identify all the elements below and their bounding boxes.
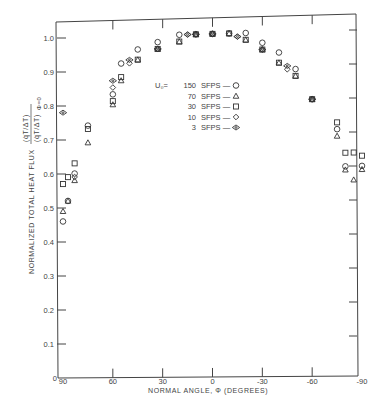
data-point-triangle	[276, 60, 282, 65]
data-point-circle	[155, 39, 161, 45]
data-point-circle	[260, 40, 266, 46]
legend-value: 3	[192, 123, 196, 132]
x-axis-ticks: 9060300-30-60-90	[59, 15, 368, 386]
y-tick-label: 0.4	[44, 238, 54, 247]
heat-flux-chart: 0.10.20.30.40.50.60.70.80.91.00 9060300-…	[0, 0, 379, 409]
legend-unit: SFPS —	[201, 113, 231, 122]
y-tick-label: 0.6	[44, 170, 54, 179]
y-axis-label: NORMALIZED TOTAL HEAT FLUX	[28, 149, 35, 274]
data-point-circle	[243, 30, 249, 36]
data-point-triangle	[85, 140, 91, 145]
data-point-triangle	[233, 93, 239, 98]
y-tick-label: 0.1	[44, 340, 54, 349]
data-point-triangle	[243, 37, 249, 42]
x-tick-label: 90	[59, 377, 67, 386]
data-point-square	[233, 104, 238, 109]
y-tick-label: 0.3	[44, 272, 54, 281]
y-tick-label: 0.9	[44, 68, 54, 77]
data-point-triangle	[176, 39, 182, 44]
data-point-triangle	[110, 102, 116, 107]
data-point-eye	[109, 78, 116, 83]
legend-unit: SFPS —	[201, 123, 231, 132]
legend-unit: SFPS —	[201, 102, 231, 111]
y-tick-label: 0	[53, 374, 57, 383]
y-axis-fraction-denominator: (q̇T/ΔT)	[33, 114, 41, 142]
data-point-circle	[85, 123, 91, 129]
x-tick-label: -60	[307, 377, 318, 386]
data-point-circle	[118, 61, 124, 67]
data-point-circle	[293, 66, 299, 72]
y-tick-label: 0.5	[44, 204, 54, 213]
y-tick-label: 0.2	[44, 306, 54, 315]
data-point-square	[351, 150, 356, 155]
y-tick-label: 1.0	[44, 34, 54, 43]
x-tick-label: 30	[158, 377, 166, 386]
data-point-circle	[176, 32, 182, 38]
data-point-diamond	[185, 32, 191, 38]
legend-prefix: U₀=	[155, 81, 169, 90]
x-tick-label: -90	[357, 377, 368, 386]
legend-value: 70	[188, 92, 196, 101]
data-point-triangle	[351, 177, 357, 182]
legend-unit: SFPS —	[201, 81, 231, 90]
y-tick-label: 0.8	[44, 102, 54, 111]
data-point-square	[359, 153, 364, 158]
x-tick-label: 60	[109, 377, 117, 386]
data-point-triangle	[118, 78, 124, 83]
data-point-eye	[59, 110, 66, 115]
data-point-square	[60, 182, 65, 187]
data-point-square	[65, 175, 70, 180]
data-point-eye	[232, 125, 239, 130]
data-point-diamond	[110, 85, 116, 91]
data-point-square	[335, 120, 340, 125]
data-point-triangle	[135, 57, 141, 62]
data-point-triangle	[334, 133, 340, 138]
data-point-diamond	[233, 114, 239, 120]
data-point-circle	[233, 83, 239, 89]
data-point-diamond	[235, 34, 241, 40]
data-point-circle	[135, 47, 141, 53]
plot-frame	[56, 14, 358, 378]
legend-value: 150	[183, 81, 196, 90]
x-axis-label: NORMAL ANGLE, Φ (DEGREES)	[148, 387, 268, 395]
y-axis-title: NORMALIZED TOTAL HEAT FLUX (q̇T/ΔT) (q̇T…	[22, 97, 42, 274]
data-point-circle	[110, 92, 116, 98]
legend-unit: SFPS —	[201, 92, 231, 101]
x-tick-label: 0	[210, 377, 214, 386]
x-tick-label: -30	[257, 377, 268, 386]
y-axis-fraction-numerator: (q̇T/ΔT)	[22, 114, 30, 142]
legend: U₀=150SFPS —70SFPS —30SFPS —10SFPS —3SFP…	[155, 81, 240, 132]
legend-value: 30	[188, 102, 196, 111]
data-point-square	[72, 161, 77, 166]
y-axis-fraction-subscript: Φ=0	[36, 97, 42, 110]
y-tick-label: 0.7	[44, 136, 54, 145]
data-point-triangle	[60, 208, 66, 213]
data-point-triangle	[293, 73, 299, 78]
data-point-circle	[334, 126, 340, 132]
legend-value: 10	[188, 113, 196, 122]
data-point-square	[343, 150, 348, 155]
data-point-circle	[276, 50, 282, 56]
data-point-circle	[60, 219, 66, 225]
